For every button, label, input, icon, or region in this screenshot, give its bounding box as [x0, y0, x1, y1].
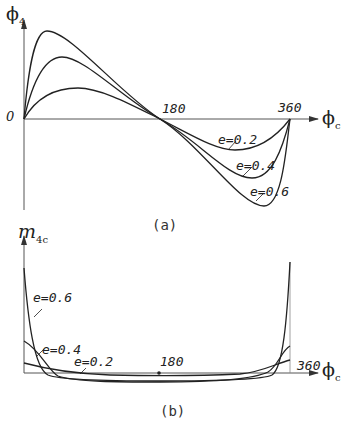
a-label-e04: e=0.4 [236, 159, 275, 172]
a-tick-360: 360 [278, 101, 301, 114]
a-label-e06: e=0.6 [250, 185, 289, 198]
b-180-dot [157, 371, 161, 375]
b-tick-180: 180 [160, 355, 183, 368]
b-leader-e06 [34, 309, 42, 317]
b-curve-e06 [24, 262, 290, 381]
a-label-e02: e=0.2 [218, 133, 257, 146]
a-caption: (a) [152, 218, 177, 232]
a-y-axis-label: ϕ4 [6, 4, 25, 27]
b-x-axis-label: ϕc [322, 360, 341, 383]
b-label-e06: e=0.6 [33, 291, 72, 304]
b-caption: (b) [160, 404, 185, 418]
a-x-axis-label: ϕc [322, 108, 341, 131]
a-tick-180: 180 [162, 102, 185, 115]
a-origin-label: 0 [6, 110, 14, 123]
b-y-axis-label: m4c [18, 222, 48, 245]
b-label-e02: e=0.2 [74, 355, 113, 368]
b-tick-360: 360 [297, 359, 320, 372]
